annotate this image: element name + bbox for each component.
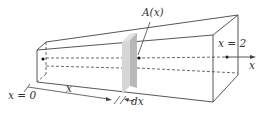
x-end-label: x = 2	[218, 37, 246, 49]
x-start-label: x = 0	[8, 89, 36, 101]
volume-diagram: A(x) x = 2 x x = 0 x dx	[0, 0, 265, 115]
area-label: A(x)	[141, 6, 164, 18]
slab-center-point	[137, 56, 140, 59]
distance-label: x	[66, 82, 72, 94]
thickness-label: dx	[131, 95, 144, 107]
axis-label: x	[249, 59, 255, 71]
cross-section-slab	[122, 33, 137, 94]
area-leader-line	[138, 22, 150, 55]
hidden-edges	[37, 42, 238, 82]
origin-point	[41, 57, 44, 60]
